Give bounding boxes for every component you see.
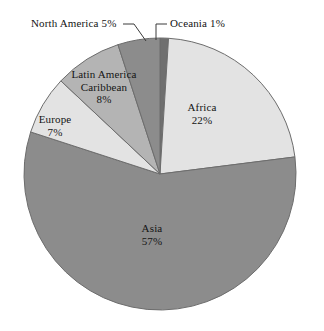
pie-chart: Africa 22% Asia 57% Europe 7% Latin Amer… [0,0,324,331]
pie-slice-africa [160,38,295,174]
pie-slices-group [24,38,296,310]
pie-chart-canvas [0,0,324,331]
pie-label-north-america: North America 5% [31,17,117,30]
leader-line-north-america [134,24,146,41]
pie-label-oceania: Oceania 1% [170,17,225,30]
